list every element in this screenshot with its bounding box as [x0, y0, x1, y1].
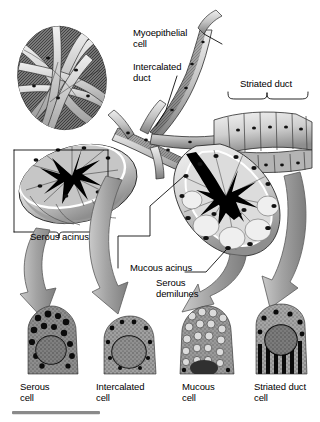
micrograph-striated-duct-cell [254, 302, 310, 376]
label-striated-duct: Striated duct [240, 79, 292, 90]
caption-serous-cell: Serous cell [20, 382, 50, 403]
label-serous-demilunes: Serous demilunes [156, 278, 198, 299]
bracket-striated-duct-right [267, 92, 308, 99]
caption-striated-duct-cell: Striated duct cell [254, 382, 306, 403]
micrograph-intercalated-cell [102, 314, 158, 376]
bracket-striated-duct [228, 92, 267, 99]
myoepithelial-basket-acinus [8, 18, 116, 139]
label-mucous-acinus: Mucous acinus [130, 263, 192, 274]
salivary-gland-figure: Myoepithelial cell Intercalated duct Str… [0, 0, 320, 422]
label-intercalated-duct: Intercalated duct [133, 62, 181, 83]
micrograph-serous-cell [26, 304, 82, 376]
serous-acinus-structure [11, 133, 146, 236]
scale-bar [12, 411, 100, 414]
label-myoepithelial-cell: Myoepithelial cell [133, 28, 187, 49]
micrograph-mucous-cell [178, 304, 236, 376]
caption-intercalated-cell: Intercalated cell [96, 382, 144, 403]
label-serous-acinus: Serous acinus [30, 232, 89, 243]
caption-mucous-cell: Mucous cell [182, 382, 215, 403]
micrograph-row [26, 302, 310, 376]
